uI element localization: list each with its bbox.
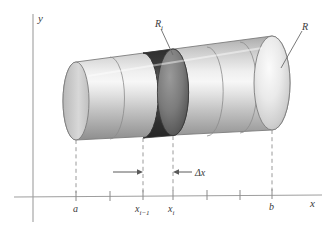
label-x-i: xi <box>167 203 174 217</box>
x-axis-label: x <box>309 197 315 209</box>
label-x-i-sub: i <box>172 209 174 217</box>
drop-lines <box>76 130 272 193</box>
label-delta-x: Δx <box>194 167 206 178</box>
delta-x-right-arrowhead <box>173 169 179 174</box>
label-radius: R <box>301 21 308 32</box>
right-end-cap <box>254 36 290 130</box>
delta-x-annotation <box>113 169 192 174</box>
label-x-prev-sub: i−1 <box>139 209 149 217</box>
label-radius-i-base: R <box>154 18 161 29</box>
label-radius-i: Ri <box>154 18 163 32</box>
y-axis-label: y <box>37 12 43 24</box>
left-end-cap <box>63 62 89 140</box>
figure-container: y x a b xi−1 xi Δx Ri R <box>0 0 334 228</box>
delta-x-left-arrowhead <box>137 169 143 174</box>
label-b: b <box>269 201 274 212</box>
label-radius-i-sub: i <box>161 24 163 32</box>
solid-of-revolution <box>63 36 290 140</box>
label-a: a <box>73 203 78 214</box>
label-x-prev: xi−1 <box>134 203 150 217</box>
x-axis-line <box>14 195 322 197</box>
solid-of-revolution-figure: y x a b xi−1 xi Δx Ri R <box>0 0 334 228</box>
